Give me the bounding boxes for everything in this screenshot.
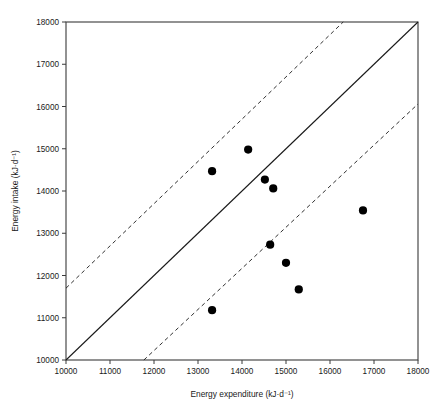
lower-limit-of-agreement <box>144 104 418 360</box>
y-tick-label: 17000 <box>36 60 59 69</box>
y-tick-label: 13000 <box>36 229 59 238</box>
data-point <box>295 285 303 293</box>
data-point <box>261 175 269 183</box>
data-point <box>208 167 216 175</box>
data-point <box>244 145 252 153</box>
x-tick-label: 13000 <box>187 367 210 376</box>
x-tick-label: 11000 <box>99 367 122 376</box>
y-axis-title: Energy intake (kJ·d⁻¹) <box>10 150 20 232</box>
data-point <box>282 259 290 267</box>
data-point <box>269 184 277 192</box>
x-tick-label: 17000 <box>363 367 386 376</box>
data-point <box>359 206 367 214</box>
line-of-identity <box>66 22 418 360</box>
y-tick-label: 14000 <box>36 187 59 196</box>
energy-intake-vs-expenditure-chart: 1000011000120001300014000150001600017000… <box>0 0 448 410</box>
x-tick-label: 10000 <box>55 367 78 376</box>
y-tick-label: 18000 <box>36 18 59 27</box>
x-tick-label: 12000 <box>143 367 166 376</box>
data-point <box>208 306 216 314</box>
y-tick-label: 10000 <box>36 356 59 365</box>
x-tick-label: 14000 <box>231 367 254 376</box>
scatter-plot-figure: 1000011000120001300014000150001600017000… <box>0 0 448 410</box>
y-tick-label: 12000 <box>36 272 59 281</box>
y-tick-label: 16000 <box>36 103 59 112</box>
y-tick-label: 15000 <box>36 145 59 154</box>
x-tick-label: 15000 <box>275 367 298 376</box>
x-tick-label: 16000 <box>319 367 342 376</box>
x-axis-title: Energy expenditure (kJ·d⁻¹) <box>190 389 293 399</box>
data-point <box>266 241 274 249</box>
y-tick-label: 11000 <box>37 314 60 323</box>
x-tick-label: 18000 <box>407 367 430 376</box>
upper-limit-of-agreement <box>66 22 343 288</box>
